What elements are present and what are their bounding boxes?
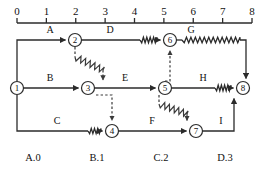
edge-A-path xyxy=(17,40,66,81)
node-5[interactable]: 5 xyxy=(159,82,172,95)
lbl-c2: C.2 xyxy=(154,152,169,163)
dep-2-3-spring xyxy=(75,56,104,72)
edges-layer xyxy=(17,37,246,133)
node-label-2: 2 xyxy=(73,35,78,45)
node-label-3: 3 xyxy=(86,83,91,93)
edge-D-spring xyxy=(140,37,157,43)
node-6[interactable]: 6 xyxy=(164,34,177,47)
edge-label-H: H xyxy=(199,72,206,83)
node-3[interactable]: 3 xyxy=(82,82,95,95)
node-label-7: 7 xyxy=(194,126,199,136)
node-1[interactable]: 1 xyxy=(11,82,24,95)
edge-label-G: G xyxy=(187,24,194,35)
node-label-1: 1 xyxy=(15,83,20,93)
lbl-a0: A.0 xyxy=(25,152,40,163)
edge-label-C: C xyxy=(54,115,61,126)
edge-G-arrow xyxy=(240,40,246,79)
edge-label-D: D xyxy=(106,24,113,35)
edge-label-A: A xyxy=(46,24,54,35)
network-diagram-svg: 012345678 12345678 ABCDEFGHI A.0B.1C.2D.… xyxy=(0,0,263,172)
node-4[interactable]: 4 xyxy=(106,125,119,138)
dep-3-4 xyxy=(96,95,112,121)
diagram-canvas: 012345678 12345678 ABCDEFGHI A.0B.1C.2D.… xyxy=(0,0,263,172)
axis-tick-label-6: 6 xyxy=(191,5,197,17)
axis-tick-label-5: 5 xyxy=(161,5,167,17)
axis-tick-label-4: 4 xyxy=(132,5,138,17)
axis-tick-label-8: 8 xyxy=(249,5,255,17)
dep-5-7-spring xyxy=(159,103,188,117)
axis-tick-label-7: 7 xyxy=(220,5,226,17)
time-axis: 012345678 xyxy=(14,5,255,23)
axis-tick-label-3: 3 xyxy=(102,5,108,17)
node-2[interactable]: 2 xyxy=(69,34,82,47)
edge-H-spring xyxy=(215,85,231,91)
edge-I-path xyxy=(203,99,235,132)
node-label-4: 4 xyxy=(110,126,115,136)
edge-C-path xyxy=(17,95,88,131)
nodes-layer: 12345678 xyxy=(11,34,250,138)
node-7[interactable]: 7 xyxy=(190,125,203,138)
edge-label-I: I xyxy=(219,115,222,126)
edge-label-F: F xyxy=(149,115,155,126)
lbl-b1: B.1 xyxy=(90,152,105,163)
edge-C-spring xyxy=(88,128,101,133)
node-label-5: 5 xyxy=(163,83,168,93)
edge-label-B: B xyxy=(47,72,54,83)
axis-tick-label-1: 1 xyxy=(44,5,50,17)
dep-5-6 xyxy=(165,51,170,82)
bottom-labels-layer: A.0B.1C.2D.3 xyxy=(25,152,232,163)
lbl-d3: D.3 xyxy=(217,152,232,163)
node-8[interactable]: 8 xyxy=(237,82,250,95)
axis-tick-label-2: 2 xyxy=(73,5,79,17)
axis-tick-label-0: 0 xyxy=(14,5,20,17)
edge-G-spring xyxy=(182,37,240,43)
node-label-8: 8 xyxy=(241,83,246,93)
node-label-6: 6 xyxy=(168,35,173,45)
edge-label-E: E xyxy=(122,72,128,83)
